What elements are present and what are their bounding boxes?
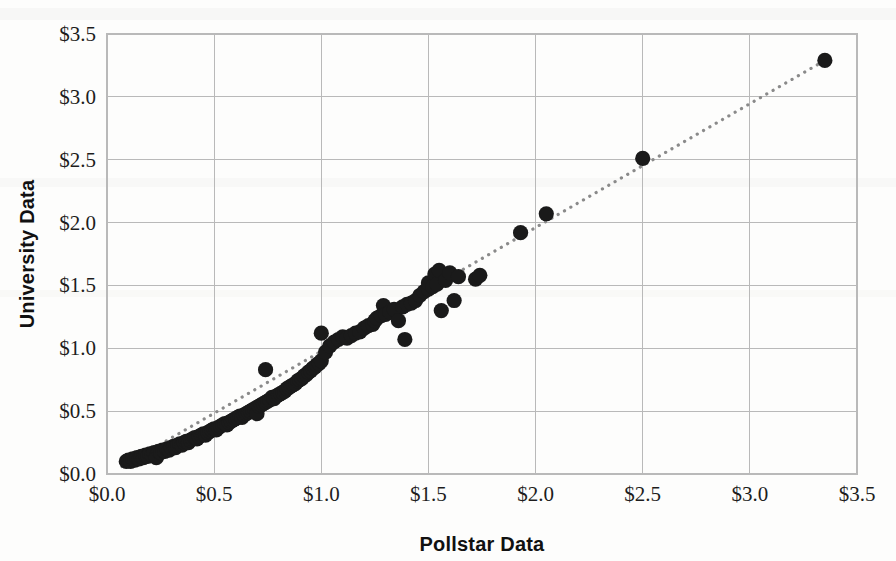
- x-tick-label: $1.0: [303, 482, 340, 506]
- data-point: [451, 269, 466, 284]
- y-tick-label: $1.5: [59, 273, 96, 297]
- data-point: [817, 53, 832, 68]
- x-axis-title: Pollstar Data: [420, 533, 546, 555]
- data-point: [397, 332, 412, 347]
- data-point: [391, 313, 406, 328]
- x-tick-label: $0.5: [196, 482, 233, 506]
- x-tick-label: $2.5: [624, 482, 661, 506]
- x-tick-label: $3.0: [731, 482, 768, 506]
- x-tick-label: $1.5: [410, 482, 447, 506]
- y-tick-label: $1.0: [59, 336, 96, 360]
- x-tick-label: $2.0: [517, 482, 554, 506]
- data-point: [635, 151, 650, 166]
- data-point: [539, 206, 554, 221]
- data-point: [513, 225, 528, 240]
- data-point: [472, 268, 487, 283]
- scatter-plot-figure: $0.0$0.5$1.0$1.5$2.0$2.5$3.0$3.5 $0.0$0.…: [0, 0, 896, 561]
- y-tick-label: $3.5: [59, 22, 96, 46]
- data-point: [434, 303, 449, 318]
- y-tick-label: $2.5: [59, 148, 96, 172]
- y-tick-label: $2.0: [59, 211, 96, 235]
- data-point: [447, 293, 462, 308]
- y-tick-label: $0.5: [59, 399, 96, 423]
- data-point: [258, 362, 273, 377]
- x-tick-label: $3.5: [839, 482, 876, 506]
- chart-canvas: $0.0$0.5$1.0$1.5$2.0$2.5$3.0$3.5 $0.0$0.…: [0, 0, 896, 561]
- y-tick-label: $0.0: [59, 462, 96, 486]
- y-tick-label: $3.0: [59, 85, 96, 109]
- y-axis-title: University Data: [16, 179, 38, 328]
- data-point: [314, 326, 329, 341]
